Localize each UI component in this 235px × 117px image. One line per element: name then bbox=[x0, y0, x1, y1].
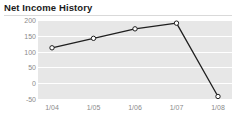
chart-plot-region: 200150100500-50 1/041/051/061/071/08 bbox=[0, 17, 235, 117]
data-point-marker[interactable] bbox=[91, 36, 95, 40]
title-divider bbox=[4, 15, 232, 16]
data-point-marker[interactable] bbox=[174, 21, 178, 25]
x-axis-tick-label: 1/07 bbox=[170, 103, 184, 112]
x-axis-tick-label: 1/05 bbox=[87, 103, 101, 112]
y-axis-tick-label: -50 bbox=[2, 96, 36, 103]
line-series-svg bbox=[38, 20, 232, 99]
y-axis-tick-label: 150 bbox=[2, 33, 36, 40]
page-title: Net Income History bbox=[4, 2, 232, 14]
y-axis-tick-label: 200 bbox=[2, 17, 36, 24]
net-income-history-chart-widget: Net Income History 200150100500-50 1/041… bbox=[0, 0, 235, 117]
x-axis-tick-label: 1/06 bbox=[128, 103, 142, 112]
data-point-marker[interactable] bbox=[50, 46, 54, 50]
y-axis-tick-label: 0 bbox=[2, 80, 36, 87]
y-axis-tick-label: 50 bbox=[2, 64, 36, 71]
x-axis-tick-labels: 1/041/051/061/071/08 bbox=[38, 102, 232, 114]
y-axis-tick-labels: 200150100500-50 bbox=[0, 20, 36, 99]
data-point-marker[interactable] bbox=[133, 27, 137, 31]
data-point-marker[interactable] bbox=[216, 94, 220, 98]
y-axis-tick-label: 100 bbox=[2, 49, 36, 56]
chart-title-row: Net Income History bbox=[4, 2, 232, 16]
plot-canvas bbox=[38, 20, 232, 99]
data-line bbox=[52, 23, 218, 96]
x-axis-tick-label: 1/04 bbox=[45, 103, 59, 112]
x-axis-tick-label: 1/08 bbox=[211, 103, 225, 112]
